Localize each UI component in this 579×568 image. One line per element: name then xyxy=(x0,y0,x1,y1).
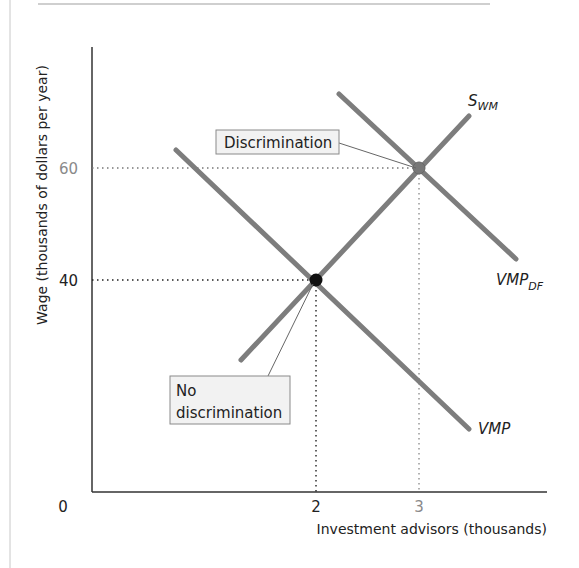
callout-line-no-discrimination xyxy=(268,284,313,376)
curve-label-s-wm: SWM xyxy=(468,92,498,113)
curve-vmp-df xyxy=(339,94,516,259)
y-tick-60: 60 xyxy=(59,160,78,178)
label-no-discrimination-line1: No xyxy=(176,382,196,400)
x-tick-3: 3 xyxy=(414,498,424,516)
y-axis-title: Wage (thousands of dollars per year) xyxy=(34,65,50,325)
x-axis-title: Investment advisors (thousands) xyxy=(317,521,547,537)
x-tick-2: 2 xyxy=(311,498,321,516)
curve-label-vmp: VMP xyxy=(478,420,511,438)
equilibrium-no-discrimination xyxy=(310,274,323,287)
origin-label: 0 xyxy=(58,498,68,516)
label-discrimination: Discrimination xyxy=(224,134,332,152)
label-no-discrimination-line2: discrimination xyxy=(176,404,282,422)
curve-label-vmp-df: VMPDF xyxy=(496,271,544,293)
y-tick-40: 40 xyxy=(59,272,78,290)
chart-canvas: Discrimination No discrimination SWM VMP… xyxy=(0,0,579,568)
